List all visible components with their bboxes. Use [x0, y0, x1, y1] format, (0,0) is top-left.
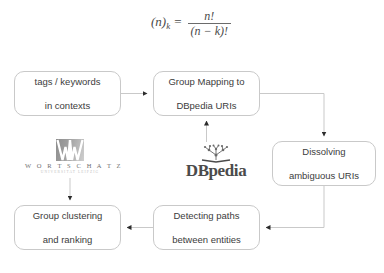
- edge-mapping-to-dissolve: [260, 94, 324, 137]
- node-dissolving-uris-label: Dissolvingambiguous URIs: [279, 146, 369, 182]
- dbpedia-wordmark: DBpedia: [172, 161, 260, 181]
- dbpedia-logo: DBpedia: [172, 143, 260, 185]
- node-line-1: Detecting paths: [167, 210, 246, 222]
- node-line-1: tags / keywords: [30, 76, 106, 88]
- node-line-2: ambiguous URIs: [284, 170, 364, 182]
- node-group-mapping[interactable]: Group Mapping toDBpedia URIs: [153, 71, 260, 116]
- wortschatz-w-glyph-icon: [56, 139, 84, 161]
- node-detecting-paths-label: Detecting pathsbetween entities: [162, 210, 251, 246]
- node-group-mapping-label: Group Mapping toDBpedia URIs: [158, 76, 254, 112]
- node-line-1: Group clustering: [28, 210, 108, 222]
- node-tags-keywords-label: tags / keywordsin contexts: [25, 76, 111, 112]
- node-line-1: Group Mapping to: [163, 76, 249, 88]
- node-tags-keywords[interactable]: tags / keywordsin contexts: [14, 71, 121, 116]
- node-group-clustering-label: Group clusteringand ranking: [23, 210, 113, 246]
- wortschatz-subtitle: UNIVERSITAT LEIPZIG: [25, 170, 115, 174]
- wortschatz-mark-icon: [56, 139, 84, 161]
- node-line-2: in contexts: [30, 100, 106, 112]
- diagram-canvas: (n)k=n!(n − k)!: [0, 0, 384, 273]
- node-dissolving-uris[interactable]: Dissolvingambiguous URIs: [272, 141, 376, 186]
- node-line-2: DBpedia URIs: [163, 100, 249, 112]
- node-detecting-paths[interactable]: Detecting pathsbetween entities: [153, 205, 260, 250]
- node-group-clustering[interactable]: Group clusteringand ranking: [14, 205, 121, 250]
- edge-dissolve-to-detect: [266, 186, 324, 228]
- wortschatz-title: W O R T S C H A T Z: [25, 162, 115, 169]
- node-line-1: Dissolving: [284, 146, 364, 158]
- dbpedia-book-node-graph-icon: [172, 143, 260, 163]
- node-line-2: between entities: [167, 234, 246, 246]
- node-line-2: and ranking: [28, 234, 108, 246]
- wortschatz-logo: W O R T S C H A T Z UNIVERSITAT LEIPZIG: [25, 139, 115, 181]
